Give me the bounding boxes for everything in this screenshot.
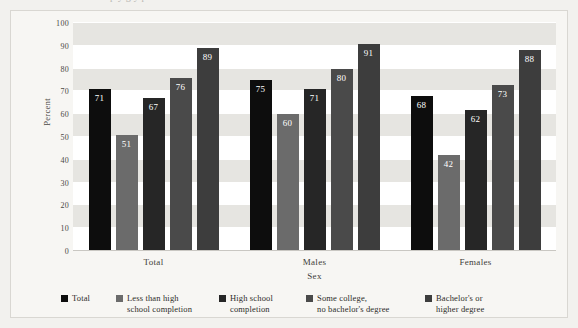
y-tick-100: 100 xyxy=(31,19,69,28)
bar-value-label: 88 xyxy=(525,55,535,64)
bar[interactable]: 75 xyxy=(250,80,272,251)
bar-value-label: 42 xyxy=(444,160,454,169)
y-tick-90: 90 xyxy=(31,41,69,50)
x-axis-title: Sex xyxy=(73,271,556,281)
bar[interactable]: 89 xyxy=(197,48,219,251)
y-tick-40: 40 xyxy=(31,155,69,164)
y-tick-50: 50 xyxy=(31,133,69,142)
bar[interactable]: 71 xyxy=(89,89,111,251)
bar-value-label: 60 xyxy=(283,119,293,128)
x-tick-males: Males xyxy=(303,257,327,267)
legend-item[interactable]: Bachelor's or higher degree xyxy=(425,293,509,314)
bar[interactable]: 42 xyxy=(438,155,460,251)
bar-value-label: 80 xyxy=(337,74,347,83)
y-tick-10: 10 xyxy=(31,224,69,233)
bar-value-label: 73 xyxy=(498,90,508,99)
bar-value-label: 71 xyxy=(95,94,105,103)
bar[interactable]: 73 xyxy=(492,85,514,251)
x-axis-baseline xyxy=(73,250,556,251)
bar-value-label: 67 xyxy=(149,103,159,112)
bar-value-label: 62 xyxy=(471,115,481,124)
bar-group-total: 7151677689 xyxy=(73,23,234,251)
bar[interactable]: 60 xyxy=(277,114,299,251)
y-tick-30: 30 xyxy=(31,178,69,187)
bar[interactable]: 80 xyxy=(331,69,353,251)
legend-item[interactable]: Less than high school completion xyxy=(116,293,208,314)
bar[interactable]: 91 xyxy=(358,44,380,251)
x-tick-females: Females xyxy=(459,257,491,267)
legend-item[interactable]: Total xyxy=(61,293,105,304)
legend-swatch-icon xyxy=(306,295,313,302)
bar-value-label: 91 xyxy=(364,49,374,58)
bar[interactable]: 76 xyxy=(170,78,192,251)
x-axis-category-labels: TotalMalesFemales xyxy=(73,257,556,271)
y-axis-tick-labels: 1009080706050403020100 xyxy=(31,23,69,251)
legend-item[interactable]: High school completion xyxy=(219,293,295,314)
legend-swatch-icon xyxy=(219,295,226,302)
y-tick-70: 70 xyxy=(31,87,69,96)
bar-value-label: 76 xyxy=(176,83,186,92)
bar-value-label: 71 xyxy=(310,94,320,103)
bar-group-females: 6842627388 xyxy=(395,23,556,251)
plot-area: 715167768975607180916842627388 xyxy=(73,23,556,251)
legend-label: Bachelor's or higher degree xyxy=(436,293,484,314)
bar-series-layer: 715167768975607180916842627388 xyxy=(73,23,556,251)
bar[interactable]: 88 xyxy=(519,50,541,251)
y-tick-60: 60 xyxy=(31,110,69,119)
bar-value-label: 75 xyxy=(256,85,266,94)
x-tick-total: Total xyxy=(144,257,164,267)
bar[interactable]: 67 xyxy=(143,98,165,251)
legend-label: Total xyxy=(72,293,90,304)
chart-container: Percent 1009080706050403020100 715167768… xyxy=(10,10,568,318)
legend-label: High school completion xyxy=(230,293,273,314)
legend-swatch-icon xyxy=(425,295,432,302)
bar-value-label: 89 xyxy=(203,53,213,62)
bar-value-label: 51 xyxy=(122,140,132,149)
legend-item[interactable]: Some college, no bachelor's degree xyxy=(306,293,414,314)
bar[interactable]: 51 xyxy=(116,135,138,251)
cut-off-title-fragment: p y g y p xyxy=(110,0,147,2)
bar[interactable]: 71 xyxy=(304,89,326,251)
legend-label: Some college, no bachelor's degree xyxy=(317,293,390,314)
chart-legend: TotalLess than high school completionHig… xyxy=(61,293,561,319)
bar[interactable]: 62 xyxy=(465,110,487,251)
bar[interactable]: 68 xyxy=(411,96,433,251)
y-tick-80: 80 xyxy=(31,64,69,73)
bar-value-label: 68 xyxy=(417,101,427,110)
legend-swatch-icon xyxy=(61,295,68,302)
y-tick-20: 20 xyxy=(31,201,69,210)
plot-area-wrapper: Percent 1009080706050403020100 715167768… xyxy=(11,11,569,261)
legend-swatch-icon xyxy=(116,295,123,302)
legend-label: Less than high school completion xyxy=(127,293,192,314)
y-tick-0: 0 xyxy=(31,247,69,256)
bar-group-males: 7560718091 xyxy=(234,23,395,251)
